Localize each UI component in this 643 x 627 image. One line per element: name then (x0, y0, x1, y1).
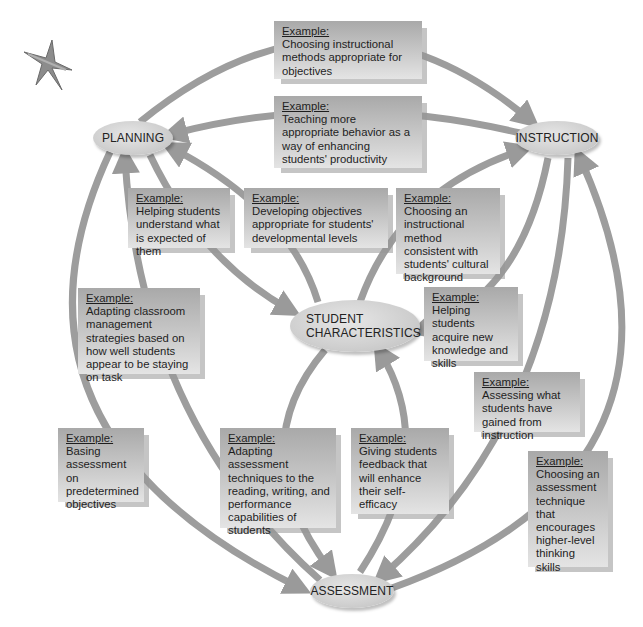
example-label: Example: (66, 432, 138, 445)
example-text: Helping students understand what is expe… (136, 205, 224, 258)
example-box-instruction-to-planning: Example: Teaching more appropriate behav… (274, 96, 422, 168)
node-student-characteristics: STUDENT CHARACTERISTICS (290, 300, 420, 352)
example-box-instruction-to-assessment: Example: Assessing what students have ga… (474, 372, 580, 432)
example-text: Helping students acquire new knowledge a… (432, 304, 512, 370)
node-student-label-2: CHARACTERISTICS (306, 326, 421, 340)
node-instruction: INSTRUCTION (515, 121, 599, 155)
example-box-assessment-to-planning: Example: Adapting classroom management s… (78, 288, 200, 374)
example-label: Example: (86, 292, 194, 305)
example-label: Example: (228, 432, 330, 445)
node-planning-label: PLANNING (102, 131, 164, 145)
node-assessment: ASSESSMENT (310, 574, 394, 608)
example-label: Example: (282, 25, 416, 38)
example-text: Assessing what students have gained from… (482, 389, 574, 442)
example-label: Example: (404, 192, 494, 205)
example-box-planning-to-instruction: Example: Choosing instructional methods … (274, 21, 422, 79)
example-label: Example: (359, 432, 443, 445)
example-box-assessment-to-instruction: Example: Choosing an assessment techniqu… (528, 451, 608, 567)
node-assessment-label: ASSESSMENT (310, 584, 393, 598)
example-box-student-to-planning: Example: Helping students understand wha… (128, 188, 230, 248)
example-box-student-to-instruction: Example: Choosing an instructional metho… (396, 188, 500, 274)
node-student-label-1: STUDENT (306, 312, 363, 326)
example-label: Example: (536, 455, 602, 468)
example-text: Teaching more appropriate behavior as a … (282, 113, 416, 166)
example-label: Example: (432, 291, 512, 304)
example-text: Basing assessment on predetermined objec… (66, 445, 138, 511)
example-box-planning-to-assessment: Example: Basing assessment on predetermi… (58, 428, 144, 502)
example-text: Adapting assessment techniques to the re… (228, 445, 330, 537)
example-box-instruction-to-student: Example: Helping students acquire new kn… (424, 287, 518, 361)
node-instruction-label: INSTRUCTION (515, 131, 598, 145)
example-label: Example: (252, 192, 382, 205)
example-box-student-to-assessment: Example: Adapting assessment techniques … (220, 428, 336, 528)
example-box-planning-student-objectives: Example: Developing objectives appropria… (244, 188, 388, 248)
example-text: Giving students feedback that will enhan… (359, 445, 443, 511)
example-text: Choosing an instructional method consist… (404, 205, 494, 284)
example-text: Choosing instructional methods appropria… (282, 38, 416, 78)
example-label: Example: (482, 376, 574, 389)
example-box-assessment-to-student: Example: Giving students feedback that w… (351, 428, 449, 514)
example-label: Example: (136, 192, 224, 205)
example-text: Adapting classroom management strategies… (86, 305, 194, 384)
node-planning: PLANNING (93, 121, 173, 155)
example-text: Choosing an assessment technique that en… (536, 468, 602, 574)
example-text: Developing objectives appropriate for st… (252, 205, 382, 245)
example-label: Example: (282, 100, 416, 113)
